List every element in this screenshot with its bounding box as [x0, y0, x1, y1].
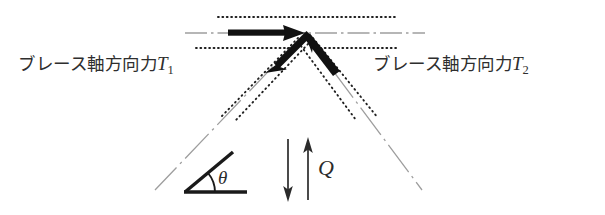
brace-force-right-text: ブレース軸方向力: [373, 54, 512, 74]
angle-label: θ: [218, 168, 227, 187]
brace-force-diagram: ブレース軸方向力T1 ブレース軸方向力T2 θ Q: [0, 0, 605, 215]
brace-force-right-symbol: T: [512, 53, 523, 74]
brace-force-left-subscript: 1: [168, 63, 174, 77]
left-brace-dotted-outer: [220, 38, 298, 118]
arrow-up-left-icon: [304, 32, 340, 76]
arrow-down-icon: [283, 139, 293, 202]
angle-arc-icon: [184, 152, 247, 192]
diagram-canvas: [0, 0, 605, 215]
left-brace-dotted-inner: [236, 44, 308, 120]
brace-force-right-label: ブレース軸方向力T2: [373, 54, 529, 76]
theta-arc: [208, 173, 215, 192]
brace-force-left-symbol: T: [157, 53, 168, 74]
brace-force-left-label: ブレース軸方向力T1: [18, 54, 174, 76]
brace-force-left-text: ブレース軸方向力: [18, 54, 157, 74]
arrow-right-icon: [228, 25, 305, 41]
shear-force-label: Q: [318, 157, 334, 179]
brace-force-right-subscript: 2: [523, 63, 529, 77]
arrow-up-icon: [303, 137, 313, 200]
